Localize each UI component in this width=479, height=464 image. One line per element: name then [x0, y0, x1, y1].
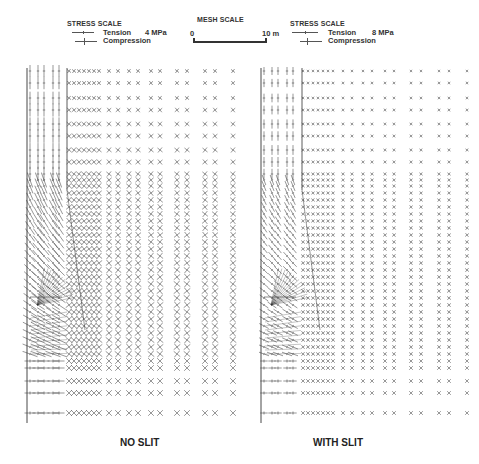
stress-trajectory-plot — [0, 0, 479, 464]
caption-no-slit: NO SLIT — [120, 437, 159, 448]
caption-with-slit: WITH SLIT — [313, 437, 363, 448]
